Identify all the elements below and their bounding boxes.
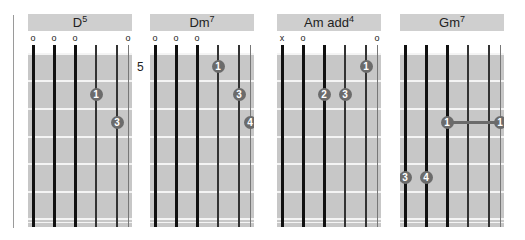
chord-diagram-gm7: Gm7 1134 bbox=[400, 0, 504, 240]
open-string-marker: o bbox=[171, 33, 181, 43]
open-string-marker: o bbox=[192, 33, 202, 43]
guitar-string-1 bbox=[404, 45, 407, 227]
finger-dot: 1 bbox=[360, 60, 373, 73]
guitar-string-2 bbox=[53, 45, 56, 227]
open-string-marker: o bbox=[298, 33, 308, 43]
guitar-string-1 bbox=[154, 45, 157, 227]
open-string-marker: o bbox=[150, 33, 160, 43]
finger-dot: 3 bbox=[339, 88, 352, 101]
open-string-marker: o bbox=[70, 33, 80, 43]
open-muted-markers bbox=[400, 33, 504, 43]
guitar-string-4 bbox=[344, 45, 346, 227]
chord-diagram-am-add4: Am add4 xoo 123 bbox=[277, 0, 381, 240]
chord-name-header: Dm7 bbox=[150, 14, 254, 31]
chord-name: Am add bbox=[304, 15, 349, 30]
chord-name-header: Am add4 bbox=[277, 14, 381, 31]
chord-superscript: 7 bbox=[210, 14, 215, 24]
guitar-string-5 bbox=[488, 45, 490, 227]
open-muted-markers: ooo bbox=[150, 33, 254, 43]
chord-superscript: 5 bbox=[82, 14, 87, 24]
open-string-marker: o bbox=[372, 33, 382, 43]
guitar-string-6 bbox=[377, 45, 378, 227]
finger-dot: 1 bbox=[494, 116, 505, 129]
finger-dot: 1 bbox=[441, 116, 454, 129]
guitar-string-3 bbox=[323, 45, 326, 227]
open-string-marker: o bbox=[123, 33, 133, 43]
finger-dot: 3 bbox=[233, 88, 246, 101]
muted-string-marker: x bbox=[277, 33, 287, 43]
guitar-string-6 bbox=[250, 45, 251, 227]
chord-superscript: 4 bbox=[349, 14, 354, 24]
guitar-string-6 bbox=[128, 45, 129, 227]
chord-name: Dm bbox=[189, 15, 209, 30]
fretboard-grid: 13 bbox=[28, 45, 132, 227]
chord-name: D bbox=[73, 15, 82, 30]
fretboard-grid: 1134 bbox=[400, 45, 504, 227]
fretboard-grid: 134 bbox=[150, 45, 254, 227]
open-string-marker: o bbox=[49, 33, 59, 43]
guitar-string-5 bbox=[116, 45, 118, 227]
guitar-string-1 bbox=[281, 45, 284, 227]
finger-dot: 1 bbox=[90, 88, 103, 101]
guitar-string-6 bbox=[500, 45, 501, 227]
chord-diagram-dm7: Dm7 ooo 134 5 bbox=[150, 0, 254, 240]
guitar-string-4 bbox=[95, 45, 97, 227]
chord-name: Gm bbox=[439, 15, 460, 30]
guitar-string-3 bbox=[74, 45, 77, 227]
barre-line bbox=[447, 121, 500, 124]
guitar-string-2 bbox=[175, 45, 178, 227]
guitar-string-2 bbox=[302, 45, 305, 227]
guitar-string-4 bbox=[467, 45, 469, 227]
chord-superscript: 7 bbox=[460, 14, 465, 24]
open-muted-markers: xoo bbox=[277, 33, 381, 43]
finger-dot: 2 bbox=[318, 88, 331, 101]
chord-diagram-d5: D5 oooo 13 bbox=[28, 0, 132, 240]
finger-dot: 1 bbox=[212, 60, 225, 73]
guitar-string-5 bbox=[238, 45, 240, 227]
fretboard-grid: 123 bbox=[277, 45, 381, 227]
start-fret-number: 5 bbox=[137, 60, 144, 74]
open-string-marker: o bbox=[28, 33, 38, 43]
finger-dot: 4 bbox=[244, 116, 255, 129]
left-divider bbox=[13, 15, 14, 228]
finger-dot: 3 bbox=[400, 171, 412, 184]
chord-name-header: Gm7 bbox=[400, 14, 504, 31]
guitar-string-2 bbox=[425, 45, 428, 227]
finger-dot: 4 bbox=[420, 171, 433, 184]
chord-name-header: D5 bbox=[28, 14, 132, 31]
open-muted-markers: oooo bbox=[28, 33, 132, 43]
finger-dot: 3 bbox=[111, 116, 124, 129]
guitar-string-3 bbox=[196, 45, 199, 227]
guitar-string-3 bbox=[446, 45, 449, 227]
guitar-string-1 bbox=[32, 45, 35, 227]
